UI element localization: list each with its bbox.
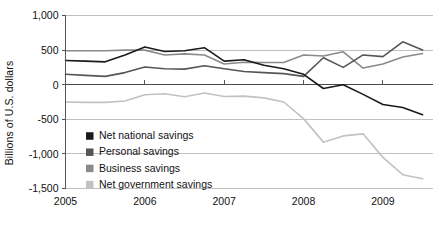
legend-label: Personal savings xyxy=(99,145,179,157)
savings-line-chart-figure: Billions of U.S. dollars 1,0005000-500-1… xyxy=(0,0,440,226)
legend-swatch xyxy=(86,132,94,140)
y-tick-label: 500 xyxy=(41,44,59,56)
x-tick-label: 2005 xyxy=(54,195,78,207)
legend-label: Business savings xyxy=(99,162,180,174)
legend-swatch xyxy=(86,181,94,189)
y-tick-label: -500 xyxy=(37,113,58,125)
chart-plot-area: 1,0005000-500-1,000-1,500 20052006200720… xyxy=(0,0,440,226)
x-tick-label: 2008 xyxy=(292,195,316,207)
y-tick-label: -1,000 xyxy=(29,148,59,160)
legend-label: Net government savings xyxy=(99,178,212,190)
x-tick-labels-group: 20052006200720082009 xyxy=(54,195,395,207)
x-tick-label: 2006 xyxy=(133,195,157,207)
series-line xyxy=(66,47,423,115)
legend-label: Net national savings xyxy=(99,129,194,141)
x-tick-label: 2007 xyxy=(213,195,237,207)
chart-legend: Net national savingsPersonal savingsBusi… xyxy=(86,129,212,190)
y-tick-label: -1,500 xyxy=(29,182,59,194)
legend-swatch xyxy=(86,165,94,173)
y-tick-label: 0 xyxy=(53,79,59,91)
y-tick-label: 1,000 xyxy=(32,9,58,21)
y-tick-labels-group: 1,0005000-500-1,000-1,500 xyxy=(29,9,59,194)
legend-swatch xyxy=(86,148,94,156)
series-group xyxy=(66,42,423,179)
x-tick-label: 2009 xyxy=(371,195,395,207)
